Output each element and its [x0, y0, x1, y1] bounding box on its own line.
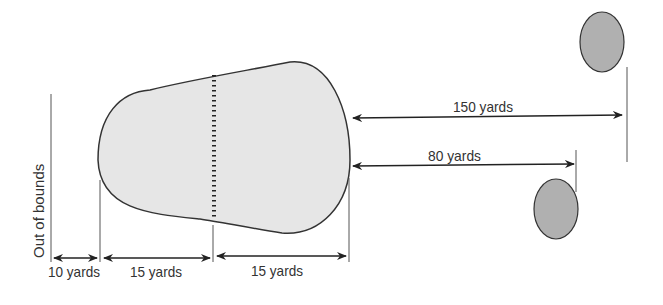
- diagram: Out of bounds 10 yards 15 yards 15 yards…: [0, 0, 663, 305]
- label-15-yards-a: 15 yards: [130, 263, 182, 280]
- target-far: [580, 12, 624, 72]
- label-out-of-bounds: Out of bounds: [30, 164, 47, 258]
- arrow-80: [353, 164, 574, 166]
- landing-area: [98, 62, 350, 233]
- label-15-yards-b: 15 yards: [251, 262, 303, 279]
- label-80-yards: 80 yards: [428, 147, 481, 164]
- target-near: [534, 179, 578, 239]
- arrow-150: [353, 115, 622, 118]
- label-10-yards: 10 yards: [48, 263, 100, 280]
- label-150-yards: 150 yards: [453, 98, 513, 115]
